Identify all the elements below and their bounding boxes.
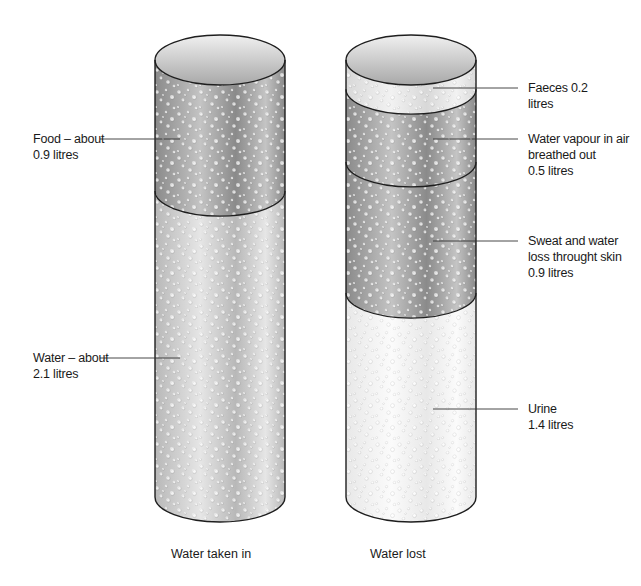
caption-water-taken-in: Water taken in (171, 547, 251, 561)
label-line: 0.9 litres (33, 147, 104, 163)
label-line: 1.4 litres (528, 417, 573, 433)
label-line: 0.5 litres (528, 163, 629, 179)
cylinder-top-face (346, 35, 476, 85)
label-line: litres (528, 96, 588, 112)
label-food: Food – about0.9 litres (33, 131, 104, 163)
label-water: Water – about2.1 litres (33, 350, 108, 382)
label-line: Faeces 0.2 (528, 80, 588, 96)
label-line: Urine (528, 401, 573, 417)
label-line: Food – about (33, 131, 104, 147)
label-water-vapour: Water vapour in airbreathed out0.5 litre… (528, 131, 629, 179)
label-line: breathed out (528, 147, 629, 163)
segment-bubbles-water (155, 191, 285, 522)
label-line: Sweat and water (528, 233, 622, 249)
label-urine: Urine1.4 litres (528, 401, 573, 433)
label-line: loss throught skin (528, 249, 622, 265)
label-faeces: Faeces 0.2litres (528, 80, 588, 112)
segment-bubbles-urine (346, 293, 476, 522)
cylinder-water-lost (346, 35, 476, 522)
cylinder-top-face (155, 35, 285, 85)
label-line: Water – about (33, 350, 108, 366)
label-line: 0.9 litres (528, 265, 622, 281)
cylinder-water-taken-in (155, 35, 285, 522)
caption-water-lost: Water lost (370, 547, 426, 561)
label-line: 2.1 litres (33, 366, 108, 382)
label-line: Water vapour in air (528, 131, 629, 147)
label-sweat: Sweat and waterloss throught skin0.9 lit… (528, 233, 622, 281)
